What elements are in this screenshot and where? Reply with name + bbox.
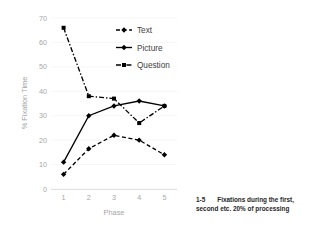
x-tick-label: 2 xyxy=(87,193,91,202)
y-tick-label: 50 xyxy=(39,62,47,71)
caption-text-2: second etc. 20% of processing xyxy=(196,205,289,212)
legend-label: Picture xyxy=(137,44,163,53)
legend-marker xyxy=(122,63,126,67)
y-tick-label: 0 xyxy=(43,185,47,194)
caption-line-1: 1-5Fixations during the first, xyxy=(196,195,300,204)
x-tick-label: 4 xyxy=(137,193,141,202)
x-axis-title: Phase xyxy=(104,208,125,217)
x-tick-label: 3 xyxy=(112,193,116,202)
data-point xyxy=(87,94,91,98)
data-point xyxy=(162,104,166,108)
y-tick-label: 10 xyxy=(39,160,47,169)
data-point xyxy=(112,97,116,101)
y-tick-label: 40 xyxy=(39,87,47,96)
y-axis-title: % Fixation Time xyxy=(20,77,29,130)
y-tick-label: 70 xyxy=(39,14,47,23)
chart-caption: 1-5Fixations during the first, second et… xyxy=(196,195,300,213)
data-point xyxy=(62,26,66,30)
caption-key: 1-5 xyxy=(196,196,205,203)
x-tick-label: 1 xyxy=(62,193,66,202)
y-tick-label: 20 xyxy=(39,136,47,145)
y-tick-label: 30 xyxy=(39,111,47,120)
caption-text-1: Fixations during the first, xyxy=(217,196,294,203)
caption-line-2: second etc. 20% of processing xyxy=(196,204,300,213)
data-point xyxy=(137,121,141,125)
y-tick-label: 60 xyxy=(39,38,47,47)
legend-label: Question xyxy=(137,61,170,70)
legend-label: Text xyxy=(137,26,153,35)
x-tick-label: 5 xyxy=(162,193,166,202)
